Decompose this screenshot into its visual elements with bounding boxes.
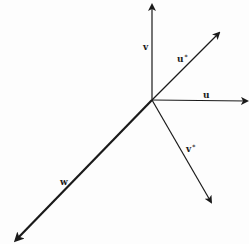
vector-v-star-arrow: [152, 100, 211, 202]
vector-w-label: w: [59, 177, 68, 187]
diagram-svg: vu*uv*w: [0, 0, 249, 244]
vector-u-star-superscript: *: [185, 53, 188, 60]
vector-u-star-label: u*: [177, 53, 188, 64]
vector-v-star-label: v*: [185, 143, 195, 154]
vector-u-label: u: [203, 90, 210, 100]
vector-diagram: vu*uv*w: [0, 0, 249, 244]
vector-w-arrow: [16, 100, 152, 240]
vector-u-arrow: [152, 100, 247, 101]
vector-v-star-superscript: *: [192, 143, 195, 150]
vector-v-label: v: [142, 42, 149, 52]
